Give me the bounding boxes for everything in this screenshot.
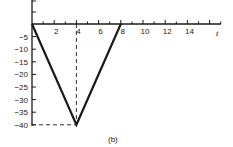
y-tick-label: −40 [14, 121, 28, 130]
y-tick-label: −5 [19, 33, 29, 42]
x-axis-label: t [216, 28, 219, 38]
figure-caption: (b) [108, 135, 118, 144]
x-tick-label: 8 [121, 27, 126, 36]
y-tick-labels: −5−10−15−20−25−30−35−40 [14, 33, 28, 130]
x-tick-label: 12 [163, 27, 172, 36]
chart-canvas: 2468101214 −5−10−15−20−25−30−35−40 t (b) [0, 0, 233, 147]
y-tick-label: −15 [14, 58, 28, 67]
y-tick-label: −35 [14, 108, 28, 117]
x-tick-label: 6 [98, 27, 103, 36]
x-tick-label: 4 [76, 27, 81, 36]
x-tick-label: 2 [54, 27, 59, 36]
x-tick-label: 14 [185, 27, 194, 36]
y-tick-label: −20 [14, 70, 28, 79]
x-tick-labels: 2468101214 [54, 27, 194, 36]
y-tick-label: −10 [14, 45, 28, 54]
y-tick-label: −25 [14, 83, 28, 92]
y-tick-label: −30 [14, 96, 28, 105]
x-tick-label: 10 [141, 27, 150, 36]
